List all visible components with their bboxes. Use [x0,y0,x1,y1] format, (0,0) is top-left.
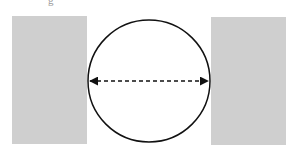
circle-diameter-diagram [0,0,293,153]
